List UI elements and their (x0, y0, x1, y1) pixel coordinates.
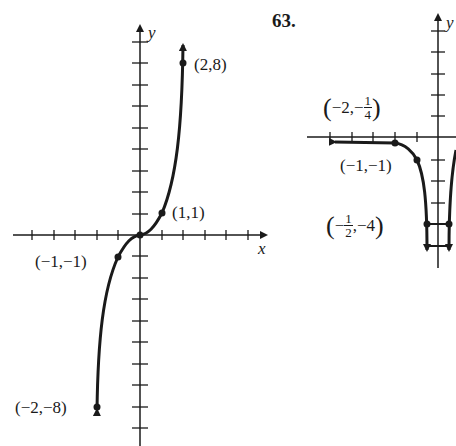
label-point-neg2-neg8: (−2,−8) (15, 399, 67, 416)
label-point-1-1: (1,1) (172, 204, 205, 221)
label-point-neg1-neg1-right: (−1,−1) (340, 157, 392, 174)
label-point-neg1-neg1: (−1,−1) (35, 253, 87, 270)
figure-stage: y x (2,8) (1,1) (−1,−1) (−2,−8) 63. y (−… (0, 0, 456, 446)
left-x-axis-label: x (258, 240, 266, 257)
label-point-neg-half-neg4: (−12,−4) (326, 212, 384, 239)
left-y-axis-label: y (148, 24, 156, 41)
label-point-neg2-neg-quarter: (−2,−14) (323, 94, 381, 121)
graphs-canvas (0, 0, 456, 446)
problem-number: 63. (272, 11, 296, 30)
reciprocal-square-curve-right (449, 150, 456, 250)
right-y-axis-label: y (446, 14, 454, 31)
left-graph (13, 26, 266, 446)
label-point-2-8: (2,8) (194, 56, 227, 73)
fraction-one-quarter: 14 (364, 94, 373, 121)
fraction-one-half: 12 (344, 212, 353, 239)
